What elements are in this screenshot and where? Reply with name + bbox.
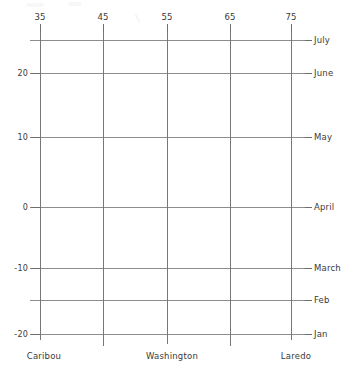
scan-artifact-scratch	[135, 14, 140, 22]
axis-label-city-laredo: Laredo	[281, 352, 311, 361]
scan-artifact-smudge-right	[68, 2, 82, 6]
tick-month-feb	[305, 300, 312, 301]
axis-label-y-neg10: -10	[2, 264, 28, 273]
tick-x-55	[167, 24, 168, 31]
gridline-vertical-55	[167, 28, 168, 344]
axis-label-y-10: 10	[4, 133, 28, 142]
gridline-vertical-35	[40, 28, 41, 340]
gridline-vertical-75	[291, 28, 292, 340]
axis-label-y-0: 0	[4, 203, 28, 212]
tick-month-april	[305, 207, 312, 208]
tick-y-10	[31, 137, 40, 138]
gridline-vertical-45	[103, 28, 104, 346]
tick-x-35	[40, 24, 41, 31]
tick-month-july	[305, 40, 312, 41]
tick-y-neg10	[31, 268, 40, 269]
axis-label-month-june: June	[314, 69, 333, 78]
tick-month-jan	[305, 334, 312, 335]
axis-label-x-35: 35	[34, 13, 45, 22]
axis-label-x-55: 55	[161, 13, 172, 22]
chart-canvas: 35 45 55 65 75 20 10 0 -10 -20 July June…	[0, 0, 347, 375]
tick-x-75	[291, 24, 292, 31]
tick-y-20	[31, 73, 40, 74]
tick-month-may	[305, 137, 312, 138]
axis-label-y-20: 20	[4, 69, 28, 78]
tick-y-neg20	[31, 334, 40, 335]
scan-artifact-smudge-left	[26, 3, 44, 7]
axis-label-month-july: July	[314, 36, 330, 45]
axis-label-month-jan: Jan	[314, 330, 328, 339]
axis-label-month-april: April	[314, 203, 334, 212]
tick-month-march	[305, 268, 312, 269]
axis-label-month-feb: Feb	[314, 296, 330, 305]
axis-label-x-45: 45	[97, 13, 108, 22]
axis-label-x-75: 75	[285, 13, 296, 22]
axis-label-city-caribou: Caribou	[27, 352, 61, 361]
axis-label-month-may: May	[314, 133, 332, 142]
axis-label-city-washington: Washington	[146, 352, 198, 361]
tick-month-june	[305, 73, 312, 74]
axis-label-x-65: 65	[224, 13, 235, 22]
tick-x-65	[230, 24, 231, 31]
tick-x-45	[103, 24, 104, 31]
gridline-vertical-65	[230, 28, 231, 346]
tick-y-0	[31, 207, 40, 208]
axis-label-y-neg20: -20	[2, 330, 28, 339]
axis-label-month-march: March	[314, 264, 341, 273]
